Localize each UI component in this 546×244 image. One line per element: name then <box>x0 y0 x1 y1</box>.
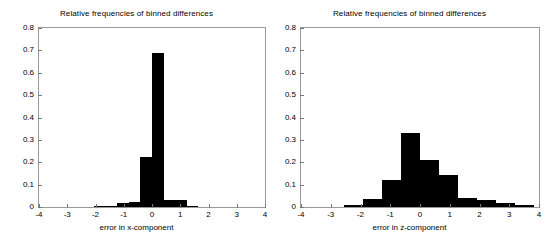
y-axis-tick-mark <box>38 162 42 163</box>
x-axis-tick-label: 3 <box>227 211 247 219</box>
x-axis-tick-label: 1 <box>440 211 460 219</box>
y-axis-tick-mark <box>300 140 304 141</box>
y-axis-tick-mark <box>38 28 42 29</box>
x-axis-tick-mark <box>96 204 97 208</box>
x-axis-tick-mark <box>390 204 391 208</box>
x-axis-tick-mark <box>480 204 481 208</box>
y-axis-tick-mark <box>300 95 304 96</box>
histogram-bar <box>152 53 164 207</box>
y-axis-tick-label: 0.8 <box>266 24 296 32</box>
x-axis-tick-label: -3 <box>57 211 77 219</box>
x-axis-tick-label: 4 <box>255 211 275 219</box>
x-axis-label: error in z-component <box>273 223 546 232</box>
y-axis-tick-label: 0.7 <box>266 46 296 54</box>
x-axis-tick-label: 0 <box>142 211 162 219</box>
x-axis-tick-label: 2 <box>470 211 490 219</box>
x-axis-tick-mark <box>124 204 125 208</box>
x-axis-tick-mark <box>39 204 40 208</box>
x-axis-tick-label: -2 <box>351 211 371 219</box>
y-axis-tick-label: 0 <box>266 203 296 211</box>
x-axis-tick-mark <box>361 204 362 208</box>
bars-z <box>301 28 539 207</box>
y-axis-tick-label: 0.3 <box>266 136 296 144</box>
y-axis-tick-label: 0 <box>4 203 34 211</box>
x-axis-tick-label: -2 <box>86 211 106 219</box>
histogram-figure: Relative frequencies of binned differenc… <box>0 0 546 244</box>
x-axis-tick-mark <box>539 204 540 208</box>
y-axis-tick-mark <box>38 95 42 96</box>
histogram-bar <box>382 180 401 207</box>
x-axis-tick-mark <box>180 204 181 208</box>
x-axis-tick-mark <box>209 204 210 208</box>
plot-area-x <box>38 27 266 208</box>
histogram-bar <box>140 157 152 207</box>
y-axis-tick-label: 0.6 <box>266 69 296 77</box>
y-axis-tick-mark <box>38 118 42 119</box>
histogram-bar <box>458 198 477 207</box>
panel-title: Relative frequencies of binned differenc… <box>273 9 546 18</box>
histogram-bar <box>439 175 458 207</box>
y-axis-tick-mark <box>300 73 304 74</box>
x-axis-tick-mark <box>420 204 421 208</box>
histogram-bar <box>420 160 439 207</box>
histogram-bar <box>164 200 176 207</box>
y-axis-tick-label: 0.4 <box>4 114 34 122</box>
histogram-bar <box>363 199 382 207</box>
x-axis-tick-label: 1 <box>170 211 190 219</box>
histogram-bar <box>187 206 199 207</box>
y-axis-tick-mark <box>300 50 304 51</box>
y-axis-tick-label: 0.5 <box>4 91 34 99</box>
y-axis-tick-mark <box>38 73 42 74</box>
y-axis-tick-label: 0.5 <box>266 91 296 99</box>
y-axis-tick-label: 0.8 <box>4 24 34 32</box>
x-axis-tick-mark <box>301 204 302 208</box>
x-axis-label: error in x-component <box>0 223 273 232</box>
x-axis-tick-label: -4 <box>291 211 311 219</box>
x-axis-tick-mark <box>450 204 451 208</box>
histogram-bar <box>129 202 141 207</box>
x-axis-tick-mark <box>237 204 238 208</box>
y-axis-tick-label: 0.4 <box>266 114 296 122</box>
y-axis-tick-mark <box>38 140 42 141</box>
y-axis-tick-label: 0.1 <box>4 181 34 189</box>
panel-title: Relative frequencies of binned differenc… <box>0 9 273 18</box>
y-axis-tick-label: 0.3 <box>4 136 34 144</box>
y-axis-tick-label: 0.2 <box>4 158 34 166</box>
histogram-bar <box>515 205 534 207</box>
x-axis-tick-mark <box>509 204 510 208</box>
y-axis-tick-mark <box>300 28 304 29</box>
y-axis-tick-mark <box>300 118 304 119</box>
x-axis-tick-mark <box>67 204 68 208</box>
histogram-bar <box>401 133 420 207</box>
y-axis-tick-mark <box>300 162 304 163</box>
y-axis-tick-mark <box>38 185 42 186</box>
x-axis-tick-label: 4 <box>529 211 546 219</box>
x-axis-tick-mark <box>331 204 332 208</box>
y-axis-tick-mark <box>38 50 42 51</box>
plot-area-z <box>300 27 540 208</box>
bars-x <box>39 28 265 207</box>
x-axis-tick-label: 2 <box>199 211 219 219</box>
x-axis-tick-mark <box>152 204 153 208</box>
x-axis-tick-label: -3 <box>321 211 341 219</box>
y-axis-tick-label: 0.6 <box>4 69 34 77</box>
y-axis-tick-label: 0.2 <box>266 158 296 166</box>
panel-z-component: Relative frequencies of binned differenc… <box>273 0 546 244</box>
x-axis-tick-label: -1 <box>380 211 400 219</box>
y-axis-tick-label: 0.1 <box>266 181 296 189</box>
panel-x-component: Relative frequencies of binned differenc… <box>0 0 273 244</box>
y-axis-tick-mark <box>300 185 304 186</box>
x-axis-tick-label: -4 <box>29 211 49 219</box>
histogram-bar <box>105 206 117 207</box>
histogram-bar <box>496 203 515 207</box>
x-axis-tick-label: 3 <box>499 211 519 219</box>
y-axis-tick-label: 0.7 <box>4 46 34 54</box>
x-axis-tick-label: -1 <box>114 211 134 219</box>
x-axis-tick-label: 0 <box>410 211 430 219</box>
